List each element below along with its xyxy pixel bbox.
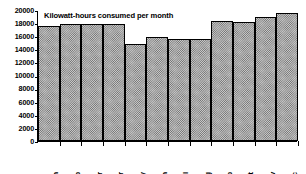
- x-axis-tick-mark: [146, 141, 147, 146]
- x-axis-tick-mark: [211, 141, 212, 146]
- x-axis-tick-mark: [233, 141, 234, 146]
- bar-chart-figure: 2000018000160001400012000100008000600040…: [0, 0, 306, 174]
- y-axis-tick-label: 4000: [0, 112, 34, 120]
- bars-group: [38, 11, 297, 141]
- x-axis-tick-label: May: [138, 172, 147, 174]
- y-axis-tick-label: 20000: [0, 7, 34, 15]
- x-axis-tick-mark: [298, 141, 299, 146]
- x-axis-tick-label: Dec: [290, 172, 299, 174]
- bar: [125, 44, 147, 141]
- x-axis-tick-mark: [125, 141, 126, 146]
- x-axis-tick-label: Jul: [181, 172, 190, 174]
- x-axis-tick-mark: [168, 141, 169, 146]
- bar: [81, 24, 103, 141]
- y-axis-tick-mark: [35, 142, 39, 143]
- bar: [211, 21, 233, 141]
- x-axis-tick-label: Jun: [160, 172, 169, 174]
- x-axis-tick-label: Feb: [73, 172, 82, 174]
- y-axis-tick-mark: [35, 24, 39, 25]
- x-axis-tick-mark: [255, 141, 256, 146]
- y-axis-tick-mark: [35, 77, 39, 78]
- x-axis-tick-label: Mar: [95, 172, 104, 174]
- x-axis-tick-mark: [60, 141, 61, 146]
- y-axis-tick-mark: [35, 50, 39, 51]
- bar: [276, 13, 298, 141]
- x-axis-tick-mark: [81, 141, 82, 146]
- x-axis-tick-label: Oct: [246, 172, 255, 174]
- x-axis-tick-label: Apr: [116, 172, 125, 174]
- y-axis-tick-mark: [35, 11, 39, 12]
- x-axis-tick-mark: [103, 141, 104, 146]
- x-axis-tick-label-group: JanFebMarAprMayJunJulAugSepOctNovDec: [37, 146, 297, 174]
- y-axis-tick-label: 0: [0, 138, 34, 146]
- bar: [103, 24, 125, 141]
- x-axis-tick-label: Nov: [268, 172, 277, 174]
- plot-area: Kilowatt-hours consumed per month: [37, 11, 297, 142]
- y-axis-tick-label: 6000: [0, 99, 34, 107]
- y-axis-tick-label-group: 2000018000160001400012000100008000600040…: [0, 0, 34, 174]
- y-axis-tick-label: 12000: [0, 59, 34, 67]
- x-axis-tick-mark: [276, 141, 277, 146]
- x-axis-tick-label: Aug: [203, 172, 212, 174]
- y-axis-tick-mark: [35, 103, 39, 104]
- bar: [38, 26, 60, 141]
- y-axis-tick-mark: [35, 116, 39, 117]
- bar: [168, 39, 190, 141]
- y-axis-tick-label: 16000: [0, 33, 34, 41]
- y-axis-tick-mark: [35, 129, 39, 130]
- y-axis-tick-label: 10000: [0, 72, 34, 80]
- bar: [190, 39, 212, 141]
- bar: [255, 17, 277, 141]
- bar: [233, 22, 255, 141]
- y-axis-tick-label: 18000: [0, 20, 34, 28]
- y-axis-tick-mark: [35, 63, 39, 64]
- x-axis-tick-label: Sep: [225, 172, 234, 174]
- y-axis-tick-mark: [35, 37, 39, 38]
- y-axis-tick-mark: [35, 90, 39, 91]
- y-axis-tick-label: 14000: [0, 46, 34, 54]
- bar: [146, 37, 168, 141]
- y-axis-tick-label: 2000: [0, 125, 34, 133]
- y-axis-tick-label: 8000: [0, 85, 34, 93]
- bar: [60, 24, 82, 141]
- x-axis-tick-label: Jan: [51, 172, 60, 174]
- x-axis-tick-mark: [190, 141, 191, 146]
